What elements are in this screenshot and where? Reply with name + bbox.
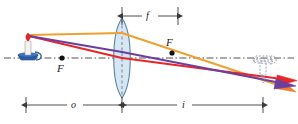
dimension-focal-length [122,7,178,25]
ray-diagram-canvas [0,0,298,124]
image-distance-label: i [182,100,185,110]
dimension-image-distance [124,97,263,113]
center-ray-incident [29,36,122,52]
focal-point-left-label: F [57,63,64,74]
candle-body [25,41,31,55]
parallel-ray-incident [29,33,122,35]
focal-point-right-dot [169,50,174,55]
focal-point-left-dot [59,55,64,60]
focal-point-right-label: F [166,37,173,48]
focal-length-label: f [146,11,149,21]
ray-diagram-figure: F F f o i [0,0,298,124]
object-distance-label: o [71,100,76,110]
center-ray-refracted [122,52,281,83]
image-holder-rim [253,59,273,63]
